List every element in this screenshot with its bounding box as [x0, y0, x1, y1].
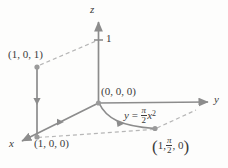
curve-equation-label: y = π 2 x2	[124, 106, 156, 125]
corner-label-first: 1,	[158, 139, 166, 151]
label-point-1-pi2-0: (1, π 2 , 0)	[152, 136, 189, 155]
y-axis-label: y	[214, 94, 219, 105]
x-axis-label: x	[9, 138, 14, 149]
curve-eq-lhs: y	[124, 109, 129, 121]
y-axis	[99, 102, 209, 103]
figure-canvas: z y x 1 (1, 0, 1) (0, 0, 0) (1, 0, 0) y …	[0, 0, 228, 168]
vertical-segment-arrow	[33, 98, 40, 105]
curve-eq-exponent: 2	[152, 109, 156, 118]
curve-eq-equals: =	[132, 109, 138, 121]
corner-label-close-paren: )	[183, 138, 189, 155]
label-point-1-0-1: (1, 0, 1)	[8, 49, 43, 60]
z-axis-label: z	[90, 4, 94, 15]
label-point-1-0-0: (1, 0, 0)	[34, 138, 69, 149]
dot-1-pi2-0	[152, 126, 157, 131]
dashed-to-z-tick	[40, 41, 96, 65]
z-tick-label-1: 1	[106, 33, 112, 44]
dashed-to-y-axis	[157, 110, 196, 128]
dot-origin	[96, 100, 101, 105]
corner-label-last: , 0	[172, 139, 183, 151]
label-origin: (0, 0, 0)	[101, 86, 136, 97]
dot-1-0-1	[34, 64, 39, 69]
